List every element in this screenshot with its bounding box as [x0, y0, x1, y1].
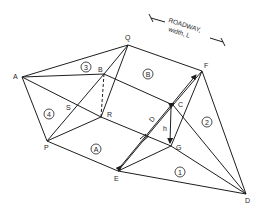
point-label-g: G — [176, 144, 181, 151]
diagonal-label: D — [148, 115, 157, 123]
region-label-2: 2 — [205, 119, 209, 126]
region-label-b: B — [146, 71, 151, 78]
region-label-3: 3 — [84, 64, 88, 71]
truss-diagram: A Q B F C G R S P E D 3 B 4 A 2 1 h D RO… — [0, 0, 261, 204]
region-label-1: 1 — [178, 169, 182, 176]
diagram-labels: A Q B F C G R S P E D 3 B 4 A 2 1 h D RO… — [0, 0, 261, 204]
point-label-d: D — [245, 197, 250, 204]
point-label-f: F — [204, 62, 208, 69]
region-label-a: A — [94, 146, 99, 153]
point-label-e: E — [114, 175, 119, 182]
point-label-p: P — [44, 144, 49, 151]
point-label-s: S — [66, 104, 71, 111]
point-label-b: B — [98, 66, 103, 73]
point-label-c: C — [178, 101, 183, 108]
point-label-q: Q — [125, 34, 131, 42]
region-label-4: 4 — [47, 111, 51, 118]
height-label: h — [163, 125, 167, 132]
point-label-a: A — [13, 73, 18, 80]
point-label-r: R — [107, 111, 112, 118]
